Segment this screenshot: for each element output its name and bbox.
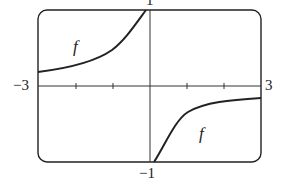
y-min-label: −1 [139,166,155,181]
x-min-label: −3 [13,78,29,93]
x-max-label: 3 [265,78,273,93]
y-max-label: 1 [146,0,154,8]
curve-left-label: f [73,38,78,55]
graph-canvas [0,0,288,184]
curve-left [38,10,146,72]
curve-right-label: f [199,125,204,142]
curve-right [154,98,261,162]
